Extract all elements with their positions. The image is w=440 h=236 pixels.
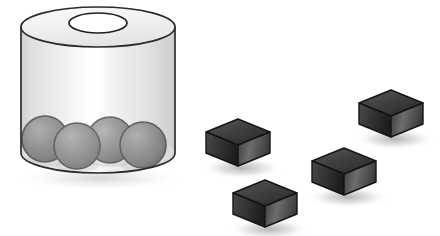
cylinder-container bbox=[18, 7, 182, 191]
cylinder-glass-sheen bbox=[21, 27, 175, 173]
illustration-scene: Transparent cylinder containing spheres … bbox=[0, 0, 440, 236]
scene-canvas bbox=[0, 0, 440, 236]
cylinder-rim-opening bbox=[69, 13, 127, 33]
